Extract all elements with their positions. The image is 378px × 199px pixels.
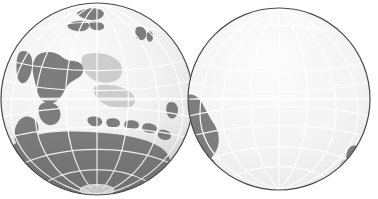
left-globe xyxy=(0,0,200,199)
globe-figure xyxy=(0,0,378,199)
right-globe xyxy=(184,8,370,197)
globe-pair-canvas xyxy=(0,0,378,199)
